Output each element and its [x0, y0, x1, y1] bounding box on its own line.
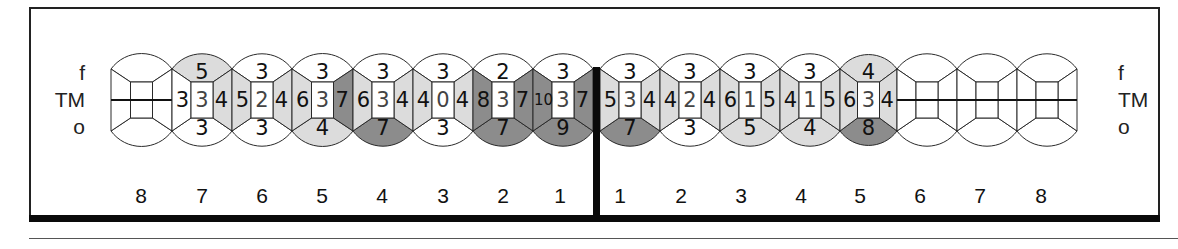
tooth-number: 8 [1021, 185, 1061, 206]
tooth-left-8 [111, 54, 172, 147]
pocket-depth-value: 4 [703, 88, 716, 112]
tooth-number: 4 [362, 185, 402, 206]
pocket-depth-value: 3 [743, 60, 756, 84]
pocket-depth-value: 3 [376, 88, 389, 112]
pocket-depth-value: 3 [255, 60, 268, 84]
tooth-right-7 [957, 54, 1017, 146]
tooth-number: 6 [900, 185, 940, 206]
pocket-depth-value: 4 [417, 88, 430, 112]
pocket-depth-value: 3 [496, 88, 509, 112]
pocket-depth-value: 6 [296, 88, 309, 112]
pocket-depth-value: 5 [195, 60, 208, 84]
pocket-depth-value: 3 [556, 60, 569, 84]
pocket-depth-value: 4 [275, 88, 288, 112]
pocket-depth-value: 5 [236, 88, 249, 112]
tooth-number: 3 [423, 185, 463, 206]
tooth-right-2: 33442 [660, 54, 720, 146]
pocket-depth-value: 3 [316, 88, 329, 112]
tooth-number: 2 [483, 185, 523, 206]
pocket-depth-value: 7 [496, 116, 509, 140]
tooth-left-2: 27873 [473, 54, 533, 146]
pocket-depth-value: 4 [643, 88, 656, 112]
pocket-depth-value: 4 [396, 88, 409, 112]
pocket-depth-value: 7 [516, 88, 529, 112]
pocket-depth-value: 4 [784, 88, 797, 112]
pocket-depth-value: 4 [664, 88, 677, 112]
tooth-number: 7 [960, 185, 1000, 206]
pocket-depth-value: 2 [255, 88, 268, 112]
pocket-depth-value: 3 [376, 60, 389, 84]
pocket-depth-value: 3 [683, 116, 696, 140]
tooth-number: 7 [182, 185, 222, 206]
tooth-number: 6 [242, 185, 282, 206]
pocket-depth-value: 3 [316, 60, 329, 84]
pocket-depth-value: 5 [823, 88, 836, 112]
tooth-left-5: 34673 [292, 54, 353, 147]
pocket-depth-value: 3 [556, 88, 569, 112]
pocket-depth-value: 1 [743, 88, 756, 112]
pocket-depth-value: 3 [623, 88, 636, 112]
pocket-depth-value: 3 [623, 60, 636, 84]
pocket-depth-value: 4 [215, 88, 228, 112]
tooth-number: 8 [121, 185, 161, 206]
tooth-right-6 [897, 54, 957, 146]
pocket-depth-value: 8 [862, 116, 875, 140]
pocket-depth-value: 4 [803, 116, 816, 140]
tooth-right-8 [1017, 54, 1077, 146]
pocket-depth-value: 3 [862, 88, 875, 112]
pocket-depth-value: 7 [623, 116, 636, 140]
tooth-right-4: 34451 [780, 54, 840, 146]
pocket-depth-value: 4 [316, 116, 329, 140]
pocket-depth-value: 6 [724, 88, 737, 112]
tooth-left-6: 33542 [232, 54, 292, 146]
pocket-depth-value: 6 [843, 88, 856, 112]
tooth-number: 5 [302, 185, 342, 206]
pocket-depth-value: 0 [436, 88, 449, 112]
pocket-depth-value: 4 [862, 60, 875, 84]
pocket-depth-value: 3 [436, 60, 449, 84]
pocket-depth-value: 7 [576, 88, 589, 112]
tooth-left-3: 33440 [413, 54, 473, 146]
pocket-depth-value: 4 [456, 88, 469, 112]
pocket-depth-value: 2 [496, 60, 509, 84]
pocket-depth-value: 9 [556, 116, 569, 140]
tooth-number: 5 [840, 185, 880, 206]
tooth-diagram: 5334333542346733764333440278733910733754… [0, 0, 1178, 249]
tooth-left-7: 53343 [172, 54, 232, 146]
tooth-left-1: 391073 [533, 54, 593, 146]
tooth-number: 2 [661, 185, 701, 206]
pocket-depth-value: 7 [336, 88, 349, 112]
tooth-number: 1 [540, 185, 580, 206]
pocket-depth-value: 5 [763, 88, 776, 112]
pocket-depth-value: 8 [477, 88, 490, 112]
pocket-depth-value: 5 [743, 116, 756, 140]
pocket-depth-value: 4 [881, 88, 894, 112]
pocket-depth-value: 2 [683, 88, 696, 112]
midline-divider [593, 67, 600, 222]
pocket-depth-value: 1 [803, 88, 816, 112]
pocket-depth-value: 3 [803, 60, 816, 84]
pocket-depth-value: 6 [357, 88, 370, 112]
pocket-depth-value: 3 [436, 116, 449, 140]
tooth-right-1: 37543 [600, 54, 660, 146]
pocket-depth-value: 7 [376, 116, 389, 140]
tooth-left-4: 37643 [353, 54, 413, 146]
pocket-depth-value: 3 [195, 88, 208, 112]
tooth-number: 1 [600, 185, 640, 206]
pocket-depth-value: 3 [255, 116, 268, 140]
tooth-right-3: 35651 [720, 54, 780, 146]
tooth-right-5: 48643 [840, 55, 897, 146]
tooth-number: 4 [781, 185, 821, 206]
pocket-depth-value: 3 [683, 60, 696, 84]
pocket-depth-value: 10 [534, 91, 553, 109]
pocket-depth-value: 3 [176, 88, 189, 112]
tooth-number: 3 [721, 185, 761, 206]
pocket-depth-value: 3 [195, 116, 208, 140]
pocket-depth-value: 5 [604, 88, 617, 112]
